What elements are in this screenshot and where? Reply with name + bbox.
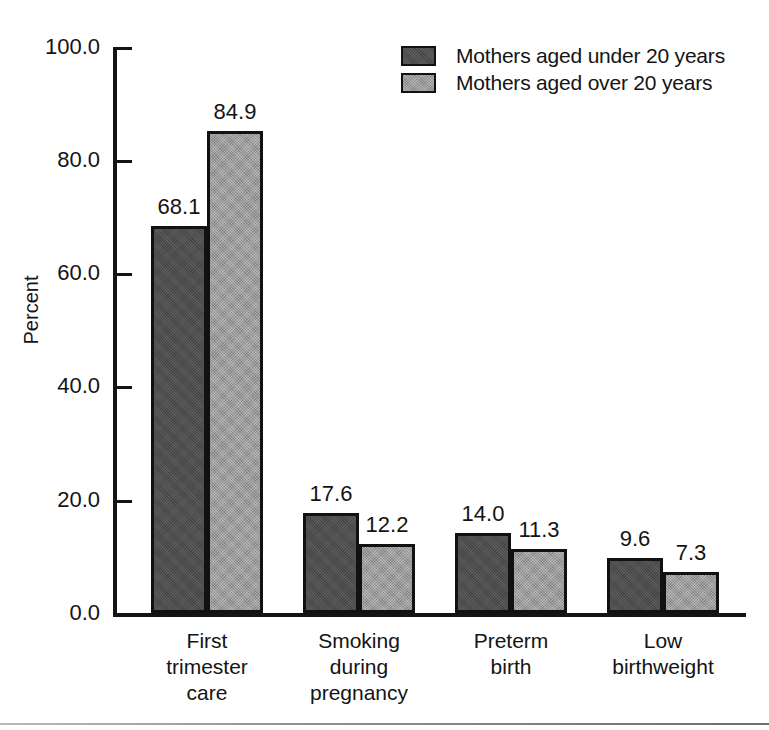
page-divider-rule — [0, 723, 769, 725]
bar-value-label: 7.3 — [651, 542, 731, 564]
y-axis-tick-label-20: 20.0 — [18, 489, 100, 511]
x-axis-category-smoking-during-pregnancy: Smoking during pregnancy — [279, 628, 439, 706]
legend-item-over-20: Mothers aged over 20 years — [401, 69, 761, 96]
category-line: care — [127, 680, 287, 706]
bar-chart: Mothers aged under 20 years Mothers aged… — [0, 0, 769, 730]
y-axis-tick-label-0: 0.0 — [18, 602, 100, 624]
y-axis-title: Percent — [21, 265, 41, 355]
y-axis-line — [113, 47, 117, 617]
y-axis-tick-80 — [117, 160, 132, 163]
legend-item-label: Mothers aged over 20 years — [456, 72, 712, 93]
y-axis-tick-0 — [117, 613, 132, 616]
category-line: birth — [431, 654, 591, 680]
bar-lowbirthweight-over20 — [663, 572, 719, 613]
category-line: Low — [583, 628, 743, 654]
light-gray-swatch-icon — [401, 73, 436, 93]
category-line: Smoking — [279, 628, 439, 654]
dark-gray-swatch-icon — [401, 46, 436, 66]
bar-preterm-over20 — [511, 549, 567, 613]
y-axis-tick-label-100: 100.0 — [18, 36, 100, 58]
bar-value-label: 11.3 — [499, 519, 579, 541]
y-axis-tick-40 — [117, 386, 132, 389]
y-axis-tick-100 — [117, 47, 132, 50]
category-line: trimester — [127, 654, 287, 680]
y-axis-tick-60 — [117, 273, 132, 276]
bar-lowbirthweight-under20 — [607, 558, 663, 613]
x-axis-category-low-birthweight: Low birthweight — [583, 628, 743, 680]
legend-item-under-20: Mothers aged under 20 years — [401, 42, 761, 69]
x-axis-category-first-trimester-care: First trimester care — [127, 628, 287, 706]
legend-item-label: Mothers aged under 20 years — [456, 45, 725, 66]
x-axis-category-preterm-birth: Preterm birth — [431, 628, 591, 680]
category-line: Preterm — [431, 628, 591, 654]
category-line: birthweight — [583, 654, 743, 680]
bar-value-label: 68.1 — [139, 196, 219, 218]
bar-value-label: 84.9 — [195, 101, 275, 123]
y-axis-tick-label-40: 40.0 — [18, 375, 100, 397]
bar-preterm-under20 — [455, 533, 511, 613]
bar-first-trimester-under20 — [151, 226, 207, 613]
bar-smoking-over20 — [359, 544, 415, 613]
y-axis-tick-label-80: 80.0 — [18, 149, 100, 171]
bar-value-label: 12.2 — [347, 514, 427, 536]
chart-legend: Mothers aged under 20 years Mothers aged… — [401, 42, 761, 96]
y-axis-tick-20 — [117, 500, 132, 503]
x-axis-line — [113, 613, 746, 617]
category-line: pregnancy — [279, 680, 439, 706]
category-line: First — [127, 628, 287, 654]
category-line: during — [279, 654, 439, 680]
bar-value-label: 17.6 — [291, 483, 371, 505]
